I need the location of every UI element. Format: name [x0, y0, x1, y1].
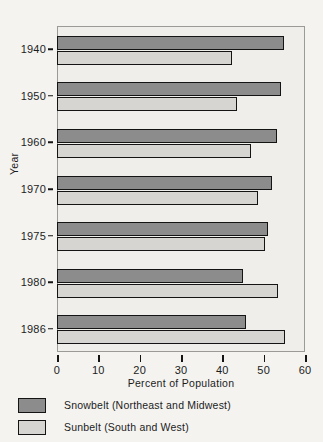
- legend-swatch-snow: [18, 398, 46, 413]
- x-tick-mark-0: [57, 355, 59, 362]
- y-tick-mark-1950: [48, 95, 53, 97]
- legend-label-snow: Snowbelt (Northeast and Midwest): [64, 399, 231, 411]
- bar-group-1986: [58, 315, 304, 344]
- bar-1975-snowbelt: [57, 222, 268, 236]
- bar-group-1980: [58, 269, 304, 298]
- x-tick-mark-40: [222, 355, 224, 362]
- x-tick-label-20: 20: [133, 365, 146, 376]
- legend-item-snow: Snowbelt (Northeast and Midwest): [18, 396, 318, 418]
- bar-1986-sunbelt: [57, 330, 285, 344]
- bar-group-1960: [58, 129, 304, 158]
- bar-1980-snowbelt: [57, 269, 243, 283]
- bar-1980-sunbelt: [57, 284, 278, 298]
- bar-group-1975: [58, 222, 304, 251]
- legend-label-sun: Sunbelt (South and West): [64, 421, 189, 433]
- x-tick-label-10: 10: [92, 365, 105, 376]
- bar-1960-snowbelt: [57, 129, 277, 143]
- x-tick-mark-50: [264, 355, 266, 362]
- population-shift-bar-chart: 1940195019601970197519801986 Year 010203…: [0, 0, 323, 442]
- chart-legend: Snowbelt (Northeast and Midwest)Sunbelt …: [18, 396, 318, 440]
- x-axis-title: Percent of Population: [57, 377, 305, 389]
- y-tick-mark-1986: [48, 328, 53, 330]
- bar-1950-sunbelt: [57, 97, 237, 111]
- bar-1986-snowbelt: [57, 315, 246, 329]
- bar-1970-sunbelt: [57, 191, 258, 205]
- x-tick-mark-30: [181, 355, 183, 362]
- bar-1950-snowbelt: [57, 82, 281, 96]
- y-tick-label-1940: 1940: [21, 44, 46, 55]
- y-tick-label-1986: 1986: [21, 323, 46, 334]
- legend-item-sun: Sunbelt (South and West): [18, 418, 318, 440]
- x-tick-label-40: 40: [216, 365, 229, 376]
- plot-area: [57, 26, 305, 352]
- y-tick-mark-1975: [48, 235, 53, 237]
- y-tick-mark-1980: [48, 281, 53, 283]
- bar-1940-sunbelt: [57, 51, 232, 65]
- y-tick-label-1975: 1975: [21, 230, 46, 241]
- y-tick-label-1950: 1950: [21, 90, 46, 101]
- y-axis-title: Year: [8, 153, 20, 175]
- y-axis: 1940195019601970197519801986: [0, 26, 53, 352]
- bar-1940-snowbelt: [57, 36, 284, 50]
- bar-1970-snowbelt: [57, 176, 272, 190]
- x-tick-mark-20: [140, 355, 142, 362]
- x-tick-label-0: 0: [54, 365, 60, 376]
- x-tick-label-60: 60: [299, 365, 312, 376]
- bar-group-1950: [58, 82, 304, 111]
- x-tick-label-30: 30: [175, 365, 188, 376]
- y-tick-label-1960: 1960: [21, 137, 46, 148]
- bar-group-1970: [58, 176, 304, 205]
- y-tick-mark-1940: [48, 49, 53, 51]
- bar-1960-sunbelt: [57, 144, 251, 158]
- x-tick-mark-60: [305, 355, 307, 362]
- y-tick-label-1980: 1980: [21, 277, 46, 288]
- y-tick-label-1970: 1970: [21, 184, 46, 195]
- y-tick-mark-1970: [48, 188, 53, 190]
- y-tick-mark-1960: [48, 142, 53, 144]
- x-tick-label-50: 50: [257, 365, 270, 376]
- bar-group-1940: [58, 36, 304, 65]
- legend-swatch-sun: [18, 420, 46, 435]
- bar-1975-sunbelt: [57, 237, 265, 251]
- x-tick-mark-10: [98, 355, 100, 362]
